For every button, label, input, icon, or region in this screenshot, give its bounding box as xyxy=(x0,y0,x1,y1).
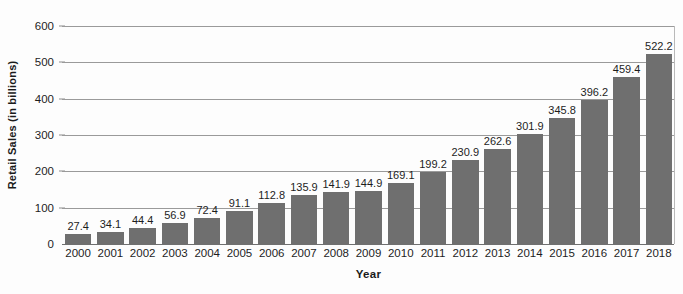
bar-2012[interactable]: 230.9 xyxy=(452,160,478,244)
y-axis-tick-label: 200 xyxy=(35,165,54,177)
bar-rect[interactable] xyxy=(291,195,317,244)
bar-value-label: 345.8 xyxy=(548,104,576,116)
bar-chart-figure: Retail Sales (in billions) 0100200300400… xyxy=(0,0,683,294)
bar-rect[interactable] xyxy=(129,228,155,244)
y-axis-tick-label: 500 xyxy=(35,56,54,68)
x-axis-tick-label: 2015 xyxy=(549,247,575,259)
axis-baseline xyxy=(62,244,674,245)
bar-rect[interactable] xyxy=(484,149,510,244)
bar-rect[interactable] xyxy=(581,100,607,244)
bar-2018[interactable]: 522.2 xyxy=(646,54,672,244)
y-axis-tick-label: 0 xyxy=(48,238,54,250)
bar-rect[interactable] xyxy=(355,191,381,244)
bar-rect[interactable] xyxy=(323,192,349,244)
x-axis-tick-label: 2007 xyxy=(291,247,317,259)
y-axis-title: Retail Sales (in billions) xyxy=(0,0,24,250)
y-axis-tick-labels: 0100200300400500600 xyxy=(24,26,58,244)
x-axis-tick-label: 2003 xyxy=(162,247,188,259)
bar-value-label: 262.6 xyxy=(484,135,512,147)
bar-value-label: 44.4 xyxy=(132,214,153,226)
y-axis-tick-label: 100 xyxy=(35,202,54,214)
x-axis-tick-label: 2009 xyxy=(356,247,382,259)
x-axis-tick-label: 2006 xyxy=(259,247,285,259)
bar-value-label: 169.1 xyxy=(387,169,415,181)
bar-2002[interactable]: 44.4 xyxy=(129,228,155,244)
x-axis-tick-label: 2013 xyxy=(485,247,511,259)
bar-2000[interactable]: 27.4 xyxy=(65,234,91,244)
bar-value-label: 459.4 xyxy=(613,63,641,75)
bar-rect[interactable] xyxy=(226,211,252,244)
x-axis-tick-labels: 2000200120022003200420052006200720082009… xyxy=(62,247,675,263)
bar-rect[interactable] xyxy=(646,54,672,244)
bar-value-label: 91.1 xyxy=(229,197,250,209)
bar-2004[interactable]: 72.4 xyxy=(194,218,220,244)
bar-2017[interactable]: 459.4 xyxy=(613,77,639,244)
bar-2001[interactable]: 34.1 xyxy=(97,232,123,244)
x-axis-tick-label: 2011 xyxy=(421,247,446,259)
bar-value-label: 230.9 xyxy=(452,146,480,158)
bar-2014[interactable]: 301.9 xyxy=(517,134,543,244)
bar-2005[interactable]: 91.1 xyxy=(226,211,252,244)
bar-value-label: 72.4 xyxy=(196,204,217,216)
bar-rect[interactable] xyxy=(613,77,639,244)
bar-2007[interactable]: 135.9 xyxy=(291,195,317,244)
bar-rect[interactable] xyxy=(517,134,543,244)
bar-rect[interactable] xyxy=(452,160,478,244)
bar-value-label: 27.4 xyxy=(67,220,88,232)
bar-value-label: 34.1 xyxy=(100,218,121,230)
bar-rect[interactable] xyxy=(65,234,91,244)
bar-rect[interactable] xyxy=(549,118,575,244)
bar-value-label: 396.2 xyxy=(581,86,609,98)
bar-2008[interactable]: 141.9 xyxy=(323,192,349,244)
x-axis-title: Year xyxy=(62,268,675,280)
y-axis-tick-label: 300 xyxy=(35,129,54,141)
x-axis-tick-label: 2005 xyxy=(227,247,253,259)
plot-area: 27.434.144.456.972.491.1112.8135.9141.91… xyxy=(62,26,675,244)
bar-value-label: 199.2 xyxy=(419,158,447,170)
bar-value-label: 56.9 xyxy=(164,209,185,221)
x-axis-tick-label: 2016 xyxy=(582,247,608,259)
bar-2003[interactable]: 56.9 xyxy=(162,223,188,244)
bar-2016[interactable]: 396.2 xyxy=(581,100,607,244)
bar-rect[interactable] xyxy=(162,223,188,244)
bar-value-label: 135.9 xyxy=(290,181,318,193)
bar-rect[interactable] xyxy=(194,218,220,244)
bar-rect[interactable] xyxy=(388,183,414,244)
x-axis-tick-label: 2017 xyxy=(614,247,640,259)
bar-2006[interactable]: 112.8 xyxy=(258,203,284,244)
bar-value-label: 301.9 xyxy=(516,120,544,132)
bar-rect[interactable] xyxy=(97,232,123,244)
bar-value-label: 522.2 xyxy=(645,40,673,52)
x-axis-tick-label: 2004 xyxy=(194,247,220,259)
bar-rect[interactable] xyxy=(420,172,446,244)
y-axis-title-text: Retail Sales (in billions) xyxy=(6,61,18,190)
x-axis-tick-label: 2002 xyxy=(130,247,156,259)
bar-2010[interactable]: 169.1 xyxy=(388,183,414,244)
y-axis-tick-label: 600 xyxy=(35,20,54,32)
bar-2011[interactable]: 199.2 xyxy=(420,172,446,244)
x-axis-tick-label: 2001 xyxy=(98,247,124,259)
x-axis-tick-label: 2000 xyxy=(65,247,91,259)
x-axis-tick-label: 2008 xyxy=(323,247,349,259)
x-axis-tick-label: 2014 xyxy=(517,247,543,259)
bar-2015[interactable]: 345.8 xyxy=(549,118,575,244)
y-axis-tick-label: 400 xyxy=(35,93,54,105)
x-axis-tick-label: 2010 xyxy=(388,247,414,259)
bar-series: 27.434.144.456.972.491.1112.8135.9141.91… xyxy=(62,26,674,244)
bar-2009[interactable]: 144.9 xyxy=(355,191,381,244)
x-axis-tick-label: 2018 xyxy=(646,247,672,259)
bar-rect[interactable] xyxy=(258,203,284,244)
bar-2013[interactable]: 262.6 xyxy=(484,149,510,244)
bar-value-label: 144.9 xyxy=(355,177,383,189)
x-axis-tick-label: 2012 xyxy=(452,247,478,259)
bar-value-label: 141.9 xyxy=(322,178,350,190)
bar-value-label: 112.8 xyxy=(258,189,285,201)
